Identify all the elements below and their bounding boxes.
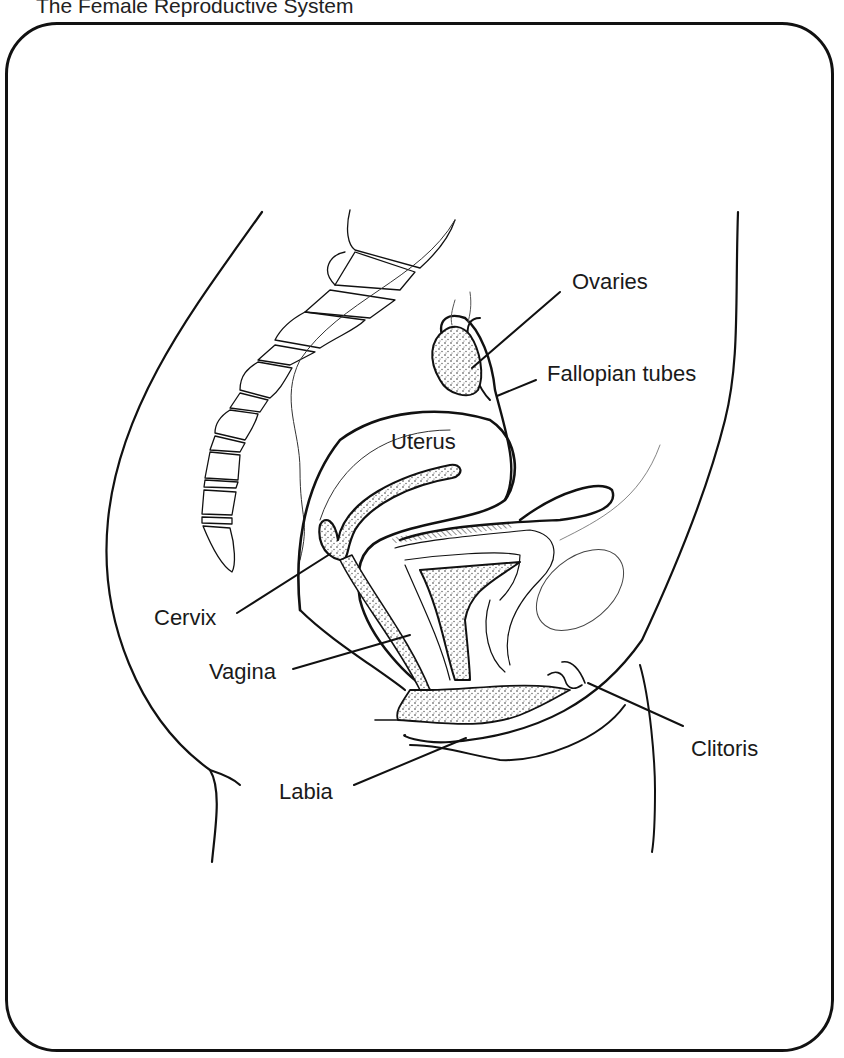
leader-ovaries (472, 292, 560, 368)
leader-vagina (293, 635, 410, 669)
label-cervix: Cervix (154, 606, 216, 630)
uterine-cavity (319, 465, 460, 560)
pubic-bone (521, 533, 639, 646)
label-uterus: Uterus (391, 430, 456, 454)
clitoris-shape (548, 662, 585, 689)
body-outline-back (107, 212, 262, 862)
leader-cervix (237, 554, 330, 613)
anatomy-illustration (0, 0, 844, 1058)
vestibule (397, 686, 570, 724)
urethra-stipple (420, 562, 520, 680)
label-clitoris: Clitoris (691, 737, 758, 761)
spine-segments (202, 210, 455, 572)
label-fallopian-tubes: Fallopian tubes (547, 362, 696, 386)
leader-fallopian-tubes (497, 380, 536, 396)
label-labia: Labia (279, 780, 333, 804)
vaginal-canal (340, 555, 430, 690)
label-vagina: Vagina (209, 660, 276, 684)
label-ovaries: Ovaries (572, 270, 648, 294)
leader-clitoris (588, 683, 683, 726)
ovary (432, 327, 481, 395)
